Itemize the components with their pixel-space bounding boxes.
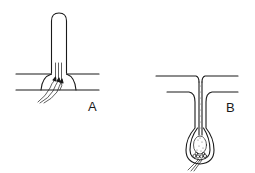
diagram-figure: A B <box>0 0 255 173</box>
nerve-fibers-b <box>188 160 202 171</box>
bulb-core <box>194 136 207 154</box>
panel-a-drawing <box>16 13 99 103</box>
surface-line <box>156 76 199 82</box>
papilla-cells <box>193 152 207 158</box>
panel-label-a: A <box>88 100 97 113</box>
panel-b-drawing <box>156 76 238 171</box>
panel-label-b: B <box>226 101 235 114</box>
projection-outline <box>52 13 67 73</box>
bulb-stipple <box>197 138 204 152</box>
shaft-stipple <box>200 86 201 129</box>
nerve-fibers <box>38 79 62 103</box>
